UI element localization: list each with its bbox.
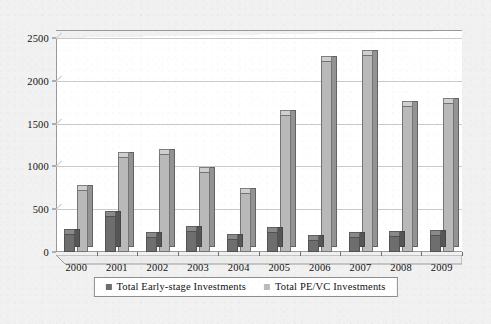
legend-label: Total PE/VC Investments (275, 281, 386, 292)
y-axis-tick-mark (52, 252, 56, 253)
bar-top (402, 101, 413, 106)
bar-face (308, 240, 319, 252)
y-axis-tick-mark (52, 38, 56, 39)
bar-top (240, 188, 251, 193)
bar-side (129, 152, 134, 247)
x-axis-tick-label: 2000 (65, 262, 87, 273)
bar-side (170, 149, 175, 247)
x-axis-tick-mark (381, 252, 382, 256)
bar (186, 231, 197, 252)
legend-label: Total Early-stage Investments (116, 281, 246, 292)
bar-face (186, 231, 197, 252)
bar-top (389, 231, 400, 236)
plot-top-edge (56, 30, 462, 38)
bar-side (75, 229, 80, 247)
x-axis-tick-label: 2002 (147, 262, 169, 273)
bar-side (373, 50, 378, 247)
bar-side (251, 188, 256, 247)
x-axis-tick-mark (137, 252, 138, 256)
x-axis-tick-mark (340, 252, 341, 256)
bar-face (430, 235, 441, 252)
bar-face (349, 237, 360, 252)
bar (105, 216, 116, 252)
bar-group (186, 38, 210, 252)
bar (402, 106, 413, 252)
bar (389, 236, 400, 252)
bar-top (105, 211, 116, 216)
bar-side (291, 110, 296, 247)
x-axis-tick-mark (462, 252, 463, 256)
bar-top (430, 230, 441, 235)
bar-group (64, 38, 88, 252)
x-axis-tick-label: 2006 (309, 262, 331, 273)
y-axis-tick-label: 500 (33, 204, 49, 215)
bar-side (116, 211, 121, 247)
bar-side (210, 167, 215, 247)
bar (227, 239, 238, 252)
bar-side (413, 101, 418, 247)
bar-group (146, 38, 170, 252)
bar-top (77, 185, 88, 190)
bar-side (454, 98, 459, 247)
bar-face (105, 216, 116, 252)
bar-side (441, 230, 446, 247)
y-axis-tick-label: 2000 (27, 75, 49, 86)
y-axis-tick-label: 2500 (27, 33, 49, 44)
bar-top (349, 232, 360, 237)
x-axis-tick-label: 2004 (228, 262, 250, 273)
legend-item[interactable]: Total PE/VC Investments (264, 281, 386, 292)
bar-group (267, 38, 291, 252)
x-axis-tick-mark (97, 252, 98, 256)
bar-side (278, 227, 283, 247)
bar-face (321, 61, 332, 252)
bar-top (267, 227, 278, 232)
legend-item[interactable]: Total Early-stage Investments (105, 281, 246, 292)
x-axis-tick-label: 2001 (106, 262, 128, 273)
x-axis-tick-label: 2007 (350, 262, 372, 273)
bar-group (308, 38, 332, 252)
bar-top (362, 50, 373, 55)
bar-top (186, 226, 197, 231)
x-axis-tick-mark (421, 252, 422, 256)
bar-side (238, 234, 243, 247)
bar-face (227, 239, 238, 252)
bar-top (321, 56, 332, 61)
y-axis-tick-mark (52, 80, 56, 81)
bar-top (146, 232, 157, 237)
bar-group (227, 38, 251, 252)
bar-group (105, 38, 129, 252)
bar-face (389, 236, 400, 252)
bar (321, 61, 332, 252)
x-axis-tick-mark (218, 252, 219, 256)
bar-top (118, 152, 129, 157)
y-axis-tick-label: 0 (44, 247, 49, 258)
x-axis-tick-label: 2003 (187, 262, 209, 273)
bar (267, 232, 278, 252)
bar-face (146, 237, 157, 252)
bar-top (199, 167, 210, 172)
bar-group (430, 38, 454, 252)
bar (146, 237, 157, 252)
legend-swatch-icon (105, 284, 111, 290)
x-axis-tick-mark (300, 252, 301, 256)
legend-swatch-icon (264, 284, 270, 290)
y-axis-tick-mark (52, 209, 56, 210)
bar-side (197, 226, 202, 247)
x-axis-tick-mark (259, 252, 260, 256)
chart-legend: Total Early-stage InvestmentsTotal PE/VC… (93, 277, 397, 297)
x-axis-tick-label: 2005 (268, 262, 290, 273)
bar (430, 235, 441, 252)
y-axis-tick-label: 1500 (27, 118, 49, 129)
bar (64, 234, 75, 252)
bar (362, 55, 373, 252)
bar (308, 240, 319, 252)
bar-top (64, 229, 75, 234)
bar-top (280, 110, 291, 115)
bar-top (308, 235, 319, 240)
bar-top (227, 234, 238, 239)
bar (349, 237, 360, 252)
x-axis-tick-label: 2008 (390, 262, 412, 273)
bar-side (332, 56, 337, 247)
bar-face (267, 232, 278, 252)
bar-face (362, 55, 373, 252)
